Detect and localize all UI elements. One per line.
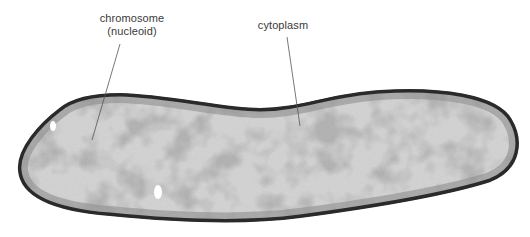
granule [50, 121, 56, 131]
chromosome-label-line1: chromosome [92, 12, 172, 25]
micrograph-figure: chromosome (nucleoid) cytoplasm [0, 0, 530, 237]
granule [154, 185, 162, 199]
chromosome-label-line2: (nucleoid) [92, 25, 172, 38]
cytoplasm-label: cytoplasm [248, 19, 318, 32]
bacterium-micrograph [0, 0, 530, 237]
cytoplasm-label-line1: cytoplasm [248, 19, 318, 32]
bacterium-cell [0, 80, 530, 230]
chromosome-label: chromosome (nucleoid) [92, 12, 172, 38]
